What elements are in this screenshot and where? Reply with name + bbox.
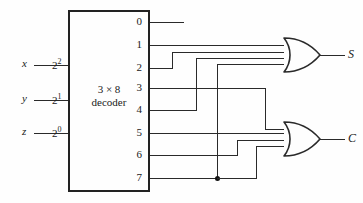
- decoder-output-label-6: 6: [128, 149, 142, 160]
- output-wire-1: [150, 45, 284, 46]
- output-label-sum: S: [348, 48, 354, 60]
- output-wire-3-seg-b: [265, 88, 266, 129]
- or-gate-sum: [282, 36, 322, 74]
- output-wire-7-seg-a: [150, 178, 217, 179]
- decoder-output-label-5: 5: [128, 127, 142, 138]
- decoder-output-label-2: 2: [128, 62, 142, 73]
- output-wire-4-seg-c: [196, 58, 284, 59]
- output-wire-4-seg-a: [150, 110, 196, 111]
- output-wire-3-seg-a: [150, 88, 265, 89]
- output-wire-2-seg-a: [150, 68, 172, 69]
- output-wire-6-seg-a: [150, 155, 237, 156]
- decoder-output-label-7: 7: [128, 172, 142, 183]
- input-label-y: y: [22, 93, 27, 104]
- input-wire-x: [34, 65, 68, 66]
- output-wire-6-seg-c: [237, 140, 284, 141]
- output-wire-4-seg-b: [196, 58, 197, 111]
- decoder-output-label-4: 4: [128, 104, 142, 115]
- input-label-x: x: [22, 58, 27, 69]
- input-wire-z: [34, 133, 68, 134]
- output-wire-7-to-sum: [217, 64, 218, 179]
- output-wire-2-seg-c: [172, 52, 284, 53]
- input-weight-x: 22: [52, 58, 62, 71]
- input-weight-y-exp: 1: [58, 92, 62, 101]
- decoder-output-label-3: 3: [128, 82, 142, 93]
- decoder-output-label-0: 0: [128, 16, 142, 27]
- input-weight-z-exp: 0: [58, 125, 62, 134]
- output-wire-7-carry-seg-b: [256, 146, 257, 179]
- output-wire-0: [150, 22, 184, 23]
- output-wire-7-carry-seg-a: [217, 178, 256, 179]
- input-weight-z: 20: [52, 126, 62, 139]
- output-wire-7-carry-seg-c: [256, 146, 284, 147]
- or-gate-sum-output-wire: [319, 55, 345, 56]
- decoder-output-label-1: 1: [128, 39, 142, 50]
- output-label-carry: C: [348, 132, 356, 144]
- input-weight-x-exp: 2: [58, 57, 62, 66]
- output-wire-7-sum-branch: [217, 64, 284, 65]
- input-weight-y: 21: [52, 93, 62, 106]
- or-gate-carry-output-wire: [319, 139, 345, 140]
- or-gate-carry: [282, 120, 322, 158]
- input-label-z: z: [22, 126, 26, 137]
- output-wire-6-seg-b: [237, 140, 238, 156]
- input-wire-y: [34, 100, 68, 101]
- circuit-diagram-canvas: 3 × 8 decoder x 22 y 21 z 20 0 1 2 3 4 5…: [0, 0, 363, 203]
- output-wire-2-seg-b: [172, 52, 173, 69]
- output-wire-5: [150, 133, 284, 134]
